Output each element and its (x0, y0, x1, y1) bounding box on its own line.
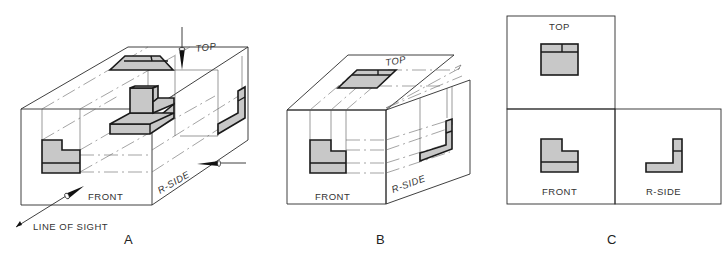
top-view-projection-b (338, 70, 396, 88)
label-line-of-sight: LINE OF SIGHT (33, 221, 108, 232)
side-view-projection-a (218, 87, 245, 134)
side-view-c (646, 139, 682, 172)
side-view-projection-b (420, 119, 452, 161)
orthographic-projection-figure: TOP FRONT R-SIDE LINE OF SIGHT A (0, 0, 725, 255)
object-3d (110, 86, 174, 134)
label-side-c: R-SIDE (646, 186, 681, 197)
top-view-arrow (179, 27, 185, 70)
caption-c: C (607, 232, 616, 247)
label-top-b: TOP (384, 53, 407, 67)
label-front-a: FRONT (88, 191, 123, 202)
front-view-c (541, 139, 578, 172)
front-view-projection-a (42, 140, 80, 173)
label-front-b: FRONT (315, 191, 350, 202)
top-view-projection-a (110, 56, 173, 70)
top-view-c (541, 44, 578, 75)
label-top-c: TOP (549, 21, 570, 32)
panel-c-orthographic-views: TOP FRONT R-SIDE C (507, 16, 721, 247)
panel-b-unfolding-box: TOP FRONT R-SIDE B (287, 53, 470, 247)
front-view-projection-b (310, 140, 346, 173)
panel-a-glass-box: TOP FRONT R-SIDE LINE OF SIGHT A (16, 27, 248, 247)
caption-a: A (124, 232, 133, 247)
caption-b: B (376, 232, 385, 247)
label-top-a: TOP (195, 40, 217, 54)
label-front-c: FRONT (542, 186, 577, 197)
side-view-arrow (197, 161, 246, 167)
